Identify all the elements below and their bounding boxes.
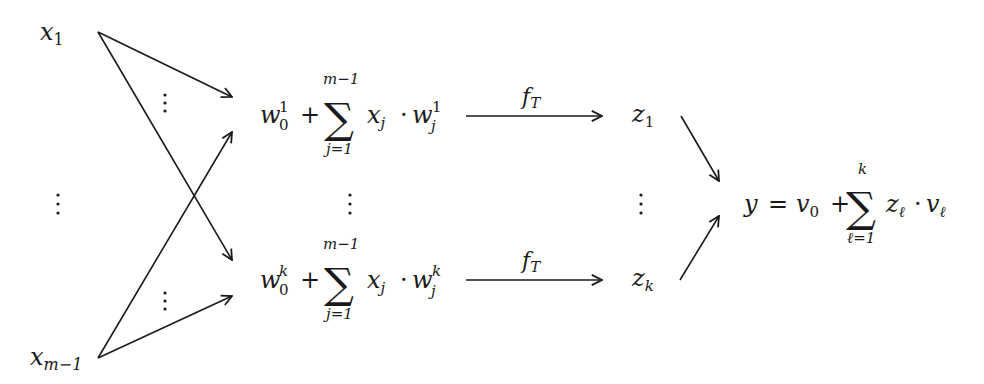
hidden-ellipsis: [348, 193, 351, 214]
edge-x1-to-hiddenk: [98, 32, 232, 260]
svg-text:j=1: j=1: [323, 140, 353, 158]
svg-text:·: ·: [914, 190, 922, 218]
hidden-output-z1: z1: [631, 100, 654, 131]
svg-text:xj: xj: [367, 266, 386, 297]
sum-symbol: ∑: [324, 259, 354, 308]
svg-text:w: w: [412, 101, 433, 129]
edge-xm1-to-hidden1: [98, 132, 232, 358]
svg-text:k: k: [279, 262, 288, 280]
svg-text:·: ·: [400, 266, 408, 294]
hidden-output-ellipsis: [639, 193, 642, 214]
svg-text:0: 0: [279, 116, 289, 134]
edge-xm1-to-hiddenk: [98, 296, 232, 358]
svg-text:=: =: [768, 190, 788, 218]
svg-text:vℓ: vℓ: [926, 190, 946, 221]
hidden-unit-1-formula: w 1 0 + ∑ m−1 j=1 xj · w 1 j: [260, 70, 442, 158]
edge-ellipsis-top: [163, 93, 166, 112]
svg-text:v0: v0: [796, 190, 819, 221]
input-x1-label: x1: [40, 18, 64, 49]
svg-text:w: w: [260, 101, 281, 129]
input-xm1-label: xm−1: [30, 343, 82, 374]
sum-symbol: ∑: [324, 94, 354, 143]
edge-ellipsis-bottom: [163, 291, 166, 310]
svg-text:zℓ: zℓ: [885, 190, 905, 221]
neural-network-diagram: x1 xm−1 w 1 0 + ∑ m−1 j=1 xj ·: [0, 0, 984, 384]
svg-text:w: w: [260, 266, 281, 294]
edge-zk-to-output: [680, 216, 719, 280]
edge-z1-to-output: [681, 116, 719, 181]
hidden-output-zk: zk: [631, 264, 654, 295]
svg-text:k: k: [858, 160, 867, 178]
svg-text:k: k: [432, 262, 441, 280]
svg-text:xj: xj: [367, 101, 386, 132]
svg-text:j=1: j=1: [323, 305, 353, 323]
sum-symbol: ∑: [846, 183, 876, 232]
svg-text:1: 1: [279, 98, 289, 116]
svg-text:+: +: [300, 101, 320, 129]
svg-text:w: w: [412, 266, 433, 294]
svg-text:+: +: [300, 266, 320, 294]
output-formula: y = v0 + ∑ k ℓ=1 zℓ · vℓ: [743, 160, 946, 247]
svg-text:ℓ=1: ℓ=1: [847, 229, 875, 247]
svg-text:m−1: m−1: [323, 235, 359, 253]
edge-x1-to-hidden1: [98, 32, 232, 97]
svg-text:·: ·: [400, 101, 408, 129]
activation-label-k: fT: [520, 248, 541, 276]
svg-text:0: 0: [279, 281, 289, 299]
svg-text:y: y: [743, 190, 758, 218]
hidden-unit-k-formula: w k 0 + ∑ m−1 j=1 xj · w k j: [260, 235, 441, 323]
svg-text:1: 1: [432, 98, 442, 116]
svg-text:m−1: m−1: [323, 70, 359, 88]
activation-label-1: fT: [520, 84, 541, 112]
input-ellipsis: [56, 193, 59, 214]
